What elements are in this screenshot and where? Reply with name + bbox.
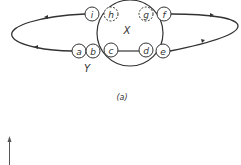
node-h: h: [104, 7, 118, 21]
axis-arrow-up-icon: [8, 136, 12, 142]
right-loop-arrow-icon: [201, 39, 205, 43]
node-label: a: [76, 47, 82, 57]
right-loop-edge: [170, 14, 238, 51]
figure-caption: (a): [116, 93, 127, 102]
node-label: d: [143, 46, 149, 56]
node-i: i: [85, 7, 99, 21]
node-label: h: [108, 10, 114, 20]
node-label: g: [143, 10, 149, 20]
left-loop-arrow-icon: [34, 45, 38, 49]
node-label: e: [160, 47, 166, 57]
group-label-y: Y: [84, 63, 91, 74]
diagram-canvas: i h g f a b c d e X Y (a): [0, 0, 241, 165]
big-circle-label: X: [123, 25, 132, 36]
node-label: c: [109, 46, 114, 56]
node-b: b: [86, 44, 100, 58]
node-f: f: [157, 7, 171, 21]
node-label: b: [90, 47, 96, 57]
node-g: g: [139, 7, 153, 21]
node-d: d: [139, 43, 153, 57]
node-c: c: [104, 43, 118, 57]
node-a: a: [72, 44, 86, 58]
node-e: e: [156, 44, 170, 58]
